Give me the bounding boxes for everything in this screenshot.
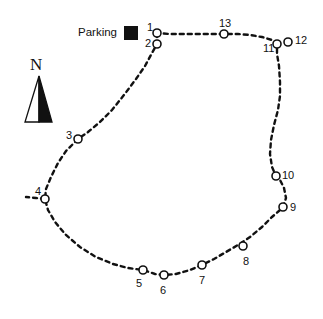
trail-stop-label-1: 1: [147, 22, 153, 33]
trail-stop-label-10: 10: [282, 170, 294, 181]
trail-stop-label-8: 8: [243, 256, 249, 267]
trail-stop-marker-1[interactable]: [153, 29, 161, 37]
trail-stop-marker-6[interactable]: [160, 271, 168, 279]
north-arrow-icon: [22, 74, 58, 126]
legend-parking-label: Parking: [78, 27, 117, 39]
trail-stop-markers: [41, 29, 292, 279]
trail-map: Parking N 12345678910111213: [0, 0, 323, 319]
trail-stop-label-2: 2: [145, 38, 151, 49]
trail-loop-path: [45, 33, 286, 275]
trail-map-canvas: [0, 0, 323, 319]
compass-north-letter: N: [30, 56, 42, 73]
trail-stop-label-4: 4: [35, 186, 41, 197]
legend-parking: Parking: [78, 26, 138, 40]
trail-stop-label-13: 13: [219, 18, 231, 29]
trail-route-group: [26, 33, 286, 275]
trail-stop-label-6: 6: [160, 285, 166, 296]
trail-stop-label-9: 9: [290, 202, 296, 213]
trail-stop-label-11: 11: [263, 43, 274, 54]
trail-stop-marker-4[interactable]: [41, 195, 49, 203]
trail-stop-marker-8[interactable]: [239, 242, 247, 250]
trail-stop-marker-12[interactable]: [284, 38, 292, 46]
parking-square-icon: [124, 26, 138, 40]
trail-stop-marker-9[interactable]: [279, 203, 287, 211]
trail-stop-label-3: 3: [66, 130, 72, 141]
trail-stop-marker-2[interactable]: [153, 40, 161, 48]
trail-stop-label-12: 12: [295, 35, 307, 46]
trail-stop-marker-3[interactable]: [74, 135, 82, 143]
trail-stop-marker-13[interactable]: [220, 30, 228, 38]
trail-stop-marker-5[interactable]: [139, 266, 147, 274]
trail-stop-label-5: 5: [136, 278, 142, 289]
trail-stop-marker-10[interactable]: [272, 172, 280, 180]
trail-stop-marker-7[interactable]: [198, 261, 206, 269]
trail-stop-label-7: 7: [199, 275, 205, 286]
